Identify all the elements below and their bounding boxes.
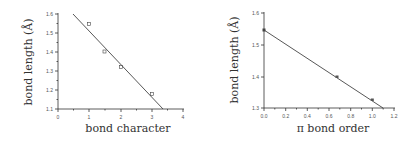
x-axis-title: bond character [85,122,171,135]
data-point [371,99,374,102]
x-tick-label: 4 [182,114,185,120]
x-tick-label: 3 [151,114,154,120]
y-tick-label: 1.4 [46,49,53,55]
chart-bond-character: 1.6 1.5 1.4 1.3 1.2 1.1 0 1 2 3 4 bond [21,11,185,135]
x-tick-label: 1.0 [369,113,376,119]
y-tick-label: 1.5 [252,42,259,48]
x-tick-label: 0.6 [326,113,333,119]
figure: 1.6 1.5 1.4 1.3 1.2 1.1 0 1 2 3 4 bond [0,0,412,143]
x-tick-label: 0.4 [304,113,311,119]
fit-line [264,30,383,108]
data-point [263,29,266,32]
x-axis-title: π bond order [297,122,370,135]
data-point [103,50,106,53]
y-ticks [55,14,58,109]
chart-pi-bond-order: 1.6 1.5 1.4 1.3 0.0 0.2 0.4 0.6 0.8 1.0 … [227,10,398,135]
y-axis-title: bond length (Å) [21,19,35,106]
y-ticks [261,13,264,108]
data-point [151,93,154,96]
x-tick-label: 1.2 [391,113,398,119]
y-tick-label: 1.6 [252,10,259,16]
data-point [88,23,91,26]
x-tick-label: 2 [120,114,123,120]
x-ticks [58,109,183,112]
x-tick-label: 0 [57,114,60,120]
x-ticks [264,108,394,111]
fit-line [73,14,163,109]
x-tick-label: 0.0 [261,113,268,119]
y-tick-label: 1.3 [46,68,53,74]
x-tick-label: 1 [88,114,91,120]
data-point [336,76,339,79]
y-tick-label: 1.3 [252,105,259,111]
x-tick-label: 0.2 [282,113,289,119]
y-tick-label: 1.4 [252,74,259,80]
y-tick-label: 1.2 [46,87,53,93]
x-tick-label: 0.8 [347,113,354,119]
y-tick-label: 1.5 [46,30,53,36]
y-tick-label: 1.1 [46,106,53,112]
y-axis-title: bond length (Å) [227,17,241,104]
y-tick-label: 1.6 [46,11,53,17]
